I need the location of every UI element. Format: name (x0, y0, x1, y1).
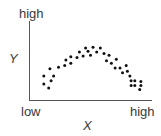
data-point (121, 71, 124, 74)
data-point (42, 83, 45, 86)
data-point (110, 62, 113, 65)
data-point (57, 66, 60, 69)
data-point (130, 84, 133, 87)
data-point (78, 51, 81, 54)
data-point (87, 50, 90, 53)
data-point (95, 51, 98, 54)
data-point (48, 67, 51, 70)
data-point (108, 54, 111, 57)
data-point (69, 62, 72, 65)
data-point (63, 64, 66, 67)
x-axis-title: X (83, 119, 92, 132)
data-point (138, 88, 141, 91)
data-point (52, 75, 55, 78)
data-point (50, 79, 53, 82)
data-point (130, 79, 133, 82)
y-axis-title: Y (9, 52, 18, 65)
data-point (105, 59, 108, 62)
data-point (47, 87, 50, 90)
data-point (76, 56, 79, 59)
data-point (92, 46, 95, 49)
data-point (89, 54, 92, 57)
data-point (126, 70, 129, 73)
data-point (119, 67, 122, 70)
x-axis-low-label: low (21, 105, 41, 118)
data-point (82, 55, 85, 58)
data-points (42, 46, 142, 91)
data-point (84, 47, 87, 50)
data-point (139, 80, 142, 83)
y-axis-high-label: high (19, 7, 44, 20)
data-point (99, 47, 102, 50)
data-point (42, 75, 45, 78)
x-axis-high-label: high (130, 105, 155, 118)
data-point (125, 64, 128, 67)
data-point (64, 59, 67, 62)
data-point (128, 75, 131, 78)
data-point (133, 79, 136, 82)
data-point (115, 58, 118, 61)
data-point (133, 84, 136, 87)
data-point (114, 67, 117, 70)
data-point (69, 55, 72, 58)
data-point (103, 52, 106, 55)
data-point (139, 84, 142, 87)
